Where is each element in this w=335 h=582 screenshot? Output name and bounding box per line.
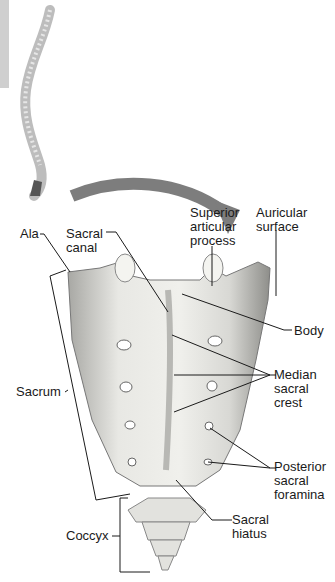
label-coccyx: Coccyx [66,529,109,543]
label-ala: Ala [20,227,39,241]
label-sacral-hiatus: Sacral hiatus [232,513,269,541]
label-body: Body [294,324,324,338]
vertebral-column-icon [25,10,50,196]
label-median-sacral-crest: Median sacral crest [274,368,317,410]
label-sacrum: Sacrum [16,385,61,399]
label-posterior-sacral-foramina: Posterior sacral foramina [274,460,326,502]
label-superior-articular-process: Superior articular process [190,206,239,248]
label-auricular-surface: Auricular surface [256,206,307,234]
label-sacral-canal: Sacral canal [66,227,103,255]
